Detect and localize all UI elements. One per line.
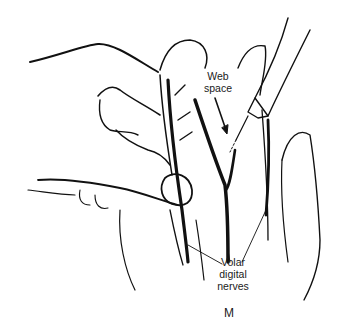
- far-right-finger: [282, 132, 320, 300]
- web-space-label: Web space: [198, 70, 238, 94]
- volar-digital-nerves-label: Volar digital nerves: [210, 256, 256, 292]
- leader-line-right: [242, 210, 266, 262]
- nerve-center: [195, 100, 228, 262]
- panel-letter: M: [224, 306, 234, 320]
- syringe-needle: [236, 116, 248, 140]
- left-hand-outline: [30, 44, 158, 72]
- illustration: Web space Volar digital nerves M: [0, 0, 338, 326]
- adjacent-finger: [238, 46, 266, 95]
- web-space-arrow: [215, 98, 226, 130]
- hand-drawing: [0, 0, 338, 326]
- syringe-barrel: [255, 18, 310, 116]
- patient-finger: [160, 40, 207, 70]
